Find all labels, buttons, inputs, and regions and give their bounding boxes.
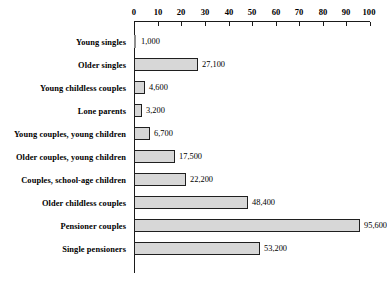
bar-young-childless-couples bbox=[134, 81, 145, 94]
value-label-lone-parents: 3,200 bbox=[146, 104, 165, 117]
value-label-older-childless-couples: 48,400 bbox=[252, 196, 275, 209]
bar-older-singles bbox=[134, 58, 198, 71]
tick-mark-70 bbox=[299, 22, 300, 26]
bar-lone-parents bbox=[134, 104, 142, 117]
tick-mark-10 bbox=[158, 22, 159, 26]
bar-single-pensioners bbox=[134, 242, 260, 255]
category-label-lone-parents: Lone parents bbox=[0, 107, 126, 117]
tick-label-70: 70 bbox=[295, 7, 304, 17]
tick-label-100: 100 bbox=[363, 7, 376, 17]
bar-couples-school-age-children bbox=[134, 173, 186, 186]
value-label-young-couples-young-children: 6,700 bbox=[154, 127, 173, 140]
tick-label-60: 60 bbox=[272, 7, 281, 17]
category-label-young-couples-young-children: Young couples, young children bbox=[0, 130, 126, 140]
value-label-single-pensioners: 53,200 bbox=[264, 242, 287, 255]
bar-young-couples-young-children bbox=[134, 127, 150, 140]
tick-mark-40 bbox=[229, 22, 230, 26]
category-label-single-pensioners: Single pensioners bbox=[0, 245, 126, 255]
tick-mark-50 bbox=[252, 22, 253, 26]
category-label-older-childless-couples: Older childless couples bbox=[0, 199, 126, 209]
value-label-older-couples-young-children: 17,500 bbox=[179, 150, 202, 163]
tick-mark-0 bbox=[134, 22, 135, 26]
tick-label-90: 90 bbox=[342, 7, 351, 17]
bar-young-singles bbox=[134, 35, 136, 48]
value-label-young-singles: 1,000 bbox=[141, 35, 160, 48]
category-label-older-couples-young-children: Older couples, young children bbox=[0, 153, 126, 163]
category-label-pensioner-couples: Pensioner couples bbox=[0, 222, 126, 232]
value-label-pensioner-couples: 95,600 bbox=[364, 219, 387, 232]
bar-older-couples-young-children bbox=[134, 150, 175, 163]
category-label-young-childless-couples: Young childless couples bbox=[0, 84, 126, 94]
value-label-older-singles: 27,100 bbox=[202, 58, 225, 71]
tick-label-80: 80 bbox=[319, 7, 328, 17]
category-label-older-singles: Older singles bbox=[0, 61, 126, 71]
tick-label-10: 10 bbox=[154, 7, 163, 17]
tick-label-40: 40 bbox=[225, 7, 234, 17]
category-label-young-singles: Young singles bbox=[0, 38, 126, 48]
plot-area: 0 10 20 30 40 50 60 70 80 90 100 1,000 2… bbox=[134, 0, 385, 289]
value-label-couples-school-age-children: 22,200 bbox=[190, 173, 213, 186]
category-label-couples-school-age-children: Couples, school-age children bbox=[0, 176, 126, 186]
tick-label-0: 0 bbox=[132, 7, 136, 17]
tick-mark-100 bbox=[370, 22, 371, 26]
tick-mark-90 bbox=[346, 22, 347, 26]
tick-label-30: 30 bbox=[201, 7, 210, 17]
bar-pensioner-couples bbox=[134, 219, 360, 232]
bar-older-childless-couples bbox=[134, 196, 248, 209]
category-labels-axis: Young singles Older singles Young childl… bbox=[0, 0, 130, 289]
tick-mark-60 bbox=[276, 22, 277, 26]
tick-mark-80 bbox=[323, 22, 324, 26]
tick-label-20: 20 bbox=[177, 7, 186, 17]
value-label-young-childless-couples: 4,600 bbox=[149, 81, 168, 94]
tick-label-50: 50 bbox=[248, 7, 257, 17]
tick-mark-20 bbox=[181, 22, 182, 26]
tick-mark-30 bbox=[205, 22, 206, 26]
